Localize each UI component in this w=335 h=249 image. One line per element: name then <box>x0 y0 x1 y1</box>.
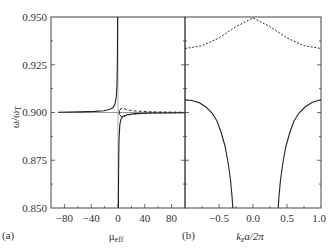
x-axis-label-b: kza/2π <box>236 230 264 244</box>
x-tick-labels-a: −80 −40 0 40 80 <box>56 212 178 224</box>
series-a-solid-upper <box>58 17 118 112</box>
x-ticks-b <box>202 204 304 208</box>
y-tick-0875: 0.875 <box>22 154 47 166</box>
y-axis-label: ω/ωT <box>9 106 23 129</box>
plot-frame-b <box>185 17 321 208</box>
y-tick-0850: 0.850 <box>22 202 47 214</box>
x-axis-label-a: μeff <box>109 230 124 244</box>
y-tick-0900: 0.900 <box>22 106 47 118</box>
svg-text:80: 80 <box>166 212 178 224</box>
panel-label-b: (b) <box>182 229 195 242</box>
svg-text:−0.5: −0.5 <box>209 212 229 224</box>
svg-text:0.5: 0.5 <box>280 212 294 224</box>
y-tick-0925: 0.925 <box>22 59 47 71</box>
x-tick-labels-b: −0.5 0.0 0.5 1.0 <box>209 212 326 224</box>
figure: 0.950 0.925 0.900 0.875 0.850 <box>0 0 335 249</box>
series-b-lower-left <box>185 100 233 208</box>
svg-text:40: 40 <box>139 212 151 224</box>
svg-text:0: 0 <box>115 212 121 224</box>
svg-text:1.0: 1.0 <box>312 212 326 224</box>
svg-text:−40: −40 <box>83 212 101 224</box>
panel-label-a: (a) <box>2 229 15 242</box>
svg-text:0.0: 0.0 <box>246 212 260 224</box>
y-tick-0950: 0.950 <box>22 11 47 23</box>
series-b-lower-right <box>278 100 321 208</box>
series-a-solid-lower <box>118 113 185 208</box>
y-tick-labels: 0.950 0.925 0.900 0.875 0.850 <box>22 11 47 214</box>
svg-text:−80: −80 <box>56 212 74 224</box>
series-b-upper-band <box>185 18 321 49</box>
